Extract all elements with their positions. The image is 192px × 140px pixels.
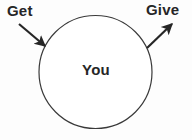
you-label: You	[0, 62, 192, 77]
give-label: Give	[146, 2, 179, 17]
get-arrow	[19, 24, 45, 46]
give-arrow	[147, 24, 172, 48]
get-label: Get	[7, 3, 33, 18]
diagram-canvas: Get Give You	[0, 0, 192, 140]
